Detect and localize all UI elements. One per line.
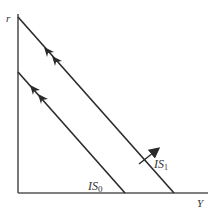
double-arrowhead-icon bbox=[30, 85, 40, 95]
is0-label: IS0 bbox=[87, 179, 103, 194]
x-axis-label: Y bbox=[197, 197, 205, 209]
is1-label: IS1 bbox=[153, 157, 168, 172]
is1-curve bbox=[18, 17, 174, 193]
is0-curve bbox=[18, 72, 125, 193]
y-axis-label: r bbox=[6, 12, 11, 24]
is-curve-diagram: r Y IS0 IS1 bbox=[0, 0, 216, 215]
